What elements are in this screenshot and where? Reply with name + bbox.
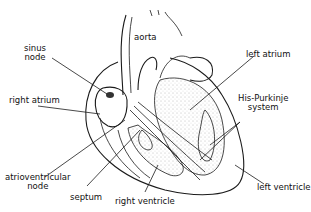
- sinus-node-shape: [106, 92, 114, 98]
- left-atrium-shape: [190, 57, 213, 81]
- heart-diagram: aorta sinus node right atrium left atriu…: [0, 0, 311, 212]
- vena-cava: [121, 15, 126, 95]
- label-left-atrium: left atrium: [246, 50, 291, 59]
- leader-av-node: [45, 120, 125, 177]
- leader-right-atrium: [38, 106, 100, 114]
- label-septum: septum: [70, 193, 102, 202]
- label-aorta: aorta: [134, 33, 156, 42]
- label-right-atrium: right atrium: [9, 96, 60, 105]
- label-sinus-node: sinus node: [24, 44, 46, 62]
- aorta-vessel: [138, 57, 157, 90]
- label-his-purkinje-line2: system: [238, 103, 288, 112]
- leader-right-ventricle: [145, 165, 158, 192]
- label-sinus-node-line2: node: [24, 53, 46, 62]
- label-left-ventricle: left ventricle: [257, 183, 311, 192]
- label-av-node: atrioventricular node: [5, 173, 71, 191]
- label-his-purkinje: His-Purkinje system: [238, 94, 288, 112]
- label-right-ventricle: right ventricle: [115, 197, 175, 206]
- label-av-node-line2: node: [5, 182, 71, 191]
